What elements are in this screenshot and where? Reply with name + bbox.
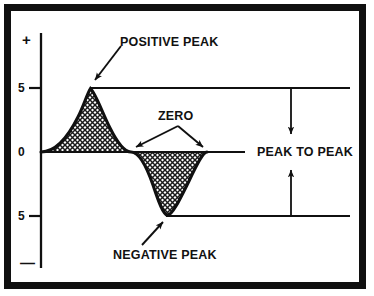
positive-peak-leader-arrow [95,46,121,80]
zero-left-leader-arrow [136,126,178,147]
negative-peak-leader-arrow [142,222,163,245]
axis-label-negative: — [20,255,35,270]
axis-tick-label-negative-5: 5 [18,210,25,222]
negative-peak-label: NEGATIVE PEAK [113,249,217,262]
peak-to-peak-label: PEAK TO PEAK [257,146,353,159]
zero-right-leader-arrow [178,126,203,147]
axis-tick-label-zero: 0 [18,146,25,158]
waveform-diagram-figure: + 5 0 5 — POSITIVE PEAK ZERO PEAK TO PEA… [0,0,374,296]
zero-label: ZERO [158,110,194,123]
positive-peak-label: POSITIVE PEAK [120,36,218,49]
axis-label-positive: + [22,32,31,47]
axis-tick-label-positive-5: 5 [18,82,25,94]
